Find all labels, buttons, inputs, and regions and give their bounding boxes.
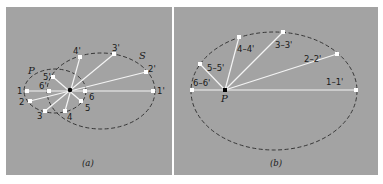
label-4: 4 bbox=[67, 112, 72, 122]
label-2: 2 bbox=[19, 97, 24, 107]
label-2-prime: 2' bbox=[148, 64, 156, 74]
panel-a-figure: 1 2 3 4 5 6 1' 2' 3' 4' 5' 6' P S (a) bbox=[17, 43, 165, 168]
panel-b-figure: 1–1' 2–2' 3–3' 4–4' 5–5' 6–6' P (b) bbox=[190, 30, 358, 168]
caption-a: (a) bbox=[82, 158, 94, 168]
label-5-5prime: 5–5' bbox=[207, 63, 224, 73]
label-3: 3 bbox=[37, 111, 42, 121]
label-6-6prime: 6–6' bbox=[193, 78, 210, 88]
label-3-prime: 3' bbox=[112, 43, 120, 53]
label-1: 1 bbox=[17, 86, 22, 96]
label-6: 6 bbox=[89, 92, 94, 102]
focus-label: P bbox=[220, 93, 228, 104]
label-5: 5 bbox=[85, 103, 90, 113]
orbit-ellipse bbox=[191, 32, 357, 150]
label-2-2prime: 2–2' bbox=[304, 54, 321, 64]
label-6-prime: 6' bbox=[39, 81, 47, 91]
ellipse-p-label: P bbox=[27, 65, 35, 76]
ellipse-s-label: S bbox=[139, 50, 146, 61]
panel-a-center-point bbox=[68, 88, 73, 93]
diagram-canvas: 1 2 3 4 5 6 1' 2' 3' 4' 5' 6' P S (a) bbox=[0, 0, 383, 184]
label-4-4prime: 4–4' bbox=[237, 44, 254, 54]
caption-b: (b) bbox=[270, 158, 282, 168]
label-1-1prime: 1–1' bbox=[326, 77, 343, 87]
label-1-prime: 1' bbox=[157, 86, 165, 96]
label-4-prime: 4' bbox=[73, 46, 81, 56]
label-3-3prime: 3–3' bbox=[275, 40, 292, 50]
focus-point bbox=[223, 88, 227, 92]
